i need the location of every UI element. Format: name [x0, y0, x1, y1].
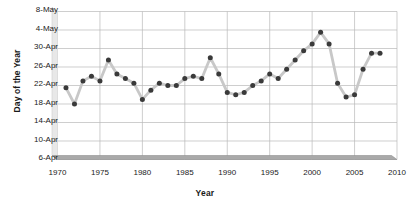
data-point: [89, 74, 94, 79]
data-point: [259, 78, 264, 83]
x-tick-label: 2000: [292, 168, 332, 177]
y-tick-label: 6-Apr: [0, 153, 58, 162]
data-point: [106, 58, 111, 63]
data-point: [284, 67, 289, 72]
data-point: [191, 74, 196, 79]
x-axis-slab: [52, 156, 397, 160]
x-axis-title: Year: [0, 188, 410, 198]
y-tick-label: 22-Apr: [0, 79, 58, 88]
data-point: [182, 76, 187, 81]
data-point: [208, 55, 213, 60]
data-point: [97, 78, 102, 83]
y-tick-label: 8-May: [0, 5, 58, 14]
data-point: [114, 71, 119, 76]
series-line: [66, 32, 380, 104]
data-point: [157, 81, 162, 86]
y-tick-label: 26-Apr: [0, 61, 58, 70]
data-point: [369, 51, 374, 56]
data-line: [66, 32, 380, 104]
x-tick-label: 1985: [165, 168, 205, 177]
data-point: [378, 51, 383, 56]
x-tick-label: 2005: [335, 168, 375, 177]
x-tick-label: 1980: [122, 168, 162, 177]
x-tick-label: 1995: [250, 168, 290, 177]
data-point: [310, 41, 315, 46]
data-point: [276, 76, 281, 81]
data-point: [174, 83, 179, 88]
data-point: [165, 83, 170, 88]
gridlines: [58, 12, 398, 160]
x-tick-label: 1990: [207, 168, 247, 177]
x-tick-label: 2010: [377, 168, 410, 177]
data-point: [233, 92, 238, 97]
data-point: [361, 67, 366, 72]
x-tick-label: 1975: [80, 168, 120, 177]
data-point: [225, 90, 230, 95]
data-point: [344, 95, 349, 100]
data-point: [250, 83, 255, 88]
data-point: [199, 76, 204, 81]
y-tick-label: 18-Apr: [0, 98, 58, 107]
data-point: [80, 78, 85, 83]
y-tick-label: 14-Apr: [0, 116, 58, 125]
data-point: [140, 97, 145, 102]
y-tick-label: 10-Apr: [0, 135, 58, 144]
data-point: [293, 58, 298, 63]
data-point: [242, 90, 247, 95]
data-point: [267, 71, 272, 76]
data-point: [327, 41, 332, 46]
data-point: [123, 76, 128, 81]
data-point: [335, 81, 340, 86]
y-tick-label: 4-May: [0, 24, 58, 33]
x-tick-label: 1970: [38, 168, 78, 177]
data-point: [72, 102, 77, 107]
data-point: [352, 92, 357, 97]
data-point: [148, 88, 153, 93]
data-point: [318, 30, 323, 35]
chart-figure: Day of the Year Year 6-Apr10-Apr14-Apr18…: [0, 0, 410, 208]
data-point: [216, 71, 221, 76]
data-point: [131, 81, 136, 86]
data-point: [301, 48, 306, 53]
data-point: [63, 85, 68, 90]
y-tick-label: 30-Apr: [0, 42, 58, 51]
